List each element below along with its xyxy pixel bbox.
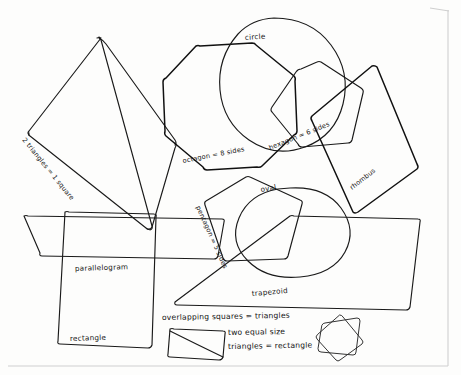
label-rhombus: rhombus [348, 166, 377, 191]
oval-shape [236, 188, 351, 278]
square-edge-diagonal [99, 37, 152, 230]
rhombus-shape [311, 66, 418, 213]
rectangle-diagonal-line [170, 331, 223, 357]
parallelogram-shape [24, 216, 224, 260]
label-trapezoid: trapezoid [251, 286, 288, 298]
note-two-equal-size: two equal size [228, 327, 286, 337]
note-overlapping-squares: overlapping squares = triangles [162, 311, 290, 322]
square-edge-bottom-left [29, 133, 150, 229]
label-pentagon: pentagon = 5 sides [194, 205, 229, 271]
label-circle: circle [245, 32, 267, 42]
worksheet-page: 2 triangles = 1 square octagon = 8 sides… [0, 0, 461, 375]
label-parallelogram: parallelogram [75, 262, 129, 273]
rectangle-shape [58, 212, 157, 349]
square-edge-bottom-right [148, 143, 176, 229]
label-oval: oval [260, 182, 277, 194]
note-triangles-rectangle: triangles = rectangle [228, 341, 313, 351]
label-rectangle: rectangle [70, 333, 107, 343]
geometry-sketch-canvas: 2 triangles = 1 square octagon = 8 sides… [0, 0, 461, 375]
square-edge-top-left [28, 38, 101, 136]
page-top-edge [430, 8, 449, 11]
label-two-triangles: 2 triangles = 1 square [20, 136, 75, 202]
label-octagon: octagon = 8 sides [182, 145, 246, 165]
circle-shape [220, 18, 346, 151]
label-hexagon: hexagon = 6 sides [268, 120, 331, 152]
